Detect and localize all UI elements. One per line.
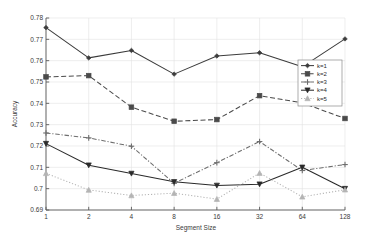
y-axis-title: Accuracy xyxy=(11,100,19,127)
x-tick-label: 32 xyxy=(256,213,264,220)
y-tick-label: 0.71 xyxy=(30,164,43,171)
series-marker xyxy=(129,105,134,110)
x-tick-label: 16 xyxy=(213,213,221,220)
x-tick-label: 1 xyxy=(44,213,48,220)
y-tick-label: 0.77 xyxy=(30,36,43,43)
series-marker xyxy=(343,116,348,121)
chart-legend: k=1k=2k=3k=4k=5 xyxy=(298,60,342,106)
y-tick-label: 0.76 xyxy=(30,57,43,64)
y-tick-label: 0.75 xyxy=(30,78,43,85)
x-tick-label: 128 xyxy=(340,213,351,220)
y-tick-label: 0.7 xyxy=(34,185,43,192)
series-marker xyxy=(86,73,91,78)
chart-canvas: 0.690.70.710.720.730.740.750.760.770.78 … xyxy=(0,0,368,242)
y-tick-label: 0.73 xyxy=(30,121,43,128)
legend-label: k=4 xyxy=(317,87,328,93)
series-marker xyxy=(257,93,262,98)
x-tick-label: 8 xyxy=(172,213,176,220)
accuracy-vs-segment-size-chart: 0.690.70.710.720.730.740.750.760.770.78 … xyxy=(0,0,368,242)
chart-background xyxy=(0,0,368,242)
legend-label: k=2 xyxy=(317,71,328,77)
legend-label: k=1 xyxy=(317,63,328,69)
y-tick-label: 0.69 xyxy=(30,206,43,213)
y-tick-label: 0.78 xyxy=(30,14,43,21)
series-marker xyxy=(172,119,177,124)
series-marker xyxy=(215,117,220,122)
legend-label: k=3 xyxy=(317,79,328,85)
x-tick-label: 4 xyxy=(130,213,134,220)
x-axis-title: Segment Size xyxy=(176,224,217,232)
x-tick-label: 64 xyxy=(299,213,307,220)
y-tick-label: 0.74 xyxy=(30,100,43,107)
series-marker xyxy=(44,75,49,80)
legend-label: k=5 xyxy=(317,96,328,102)
y-tick-label: 0.72 xyxy=(30,142,43,149)
x-tick-label: 2 xyxy=(87,213,91,220)
legend-marker-sample xyxy=(305,72,310,77)
